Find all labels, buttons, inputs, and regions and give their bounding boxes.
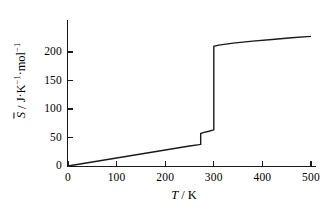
x-axis-label: T / K [124,188,244,203]
y-axis-symbol: S [15,112,30,118]
y-axis-label: S / J·K−1·mol−1 [12,16,29,146]
x-axis-unit: K [188,188,197,202]
x-axis-separator: / [178,188,188,202]
data-curve [0,0,328,214]
y-axis-unit: J·K−1·mol−1 [15,43,29,102]
entropy-temperature-chart: 0100200300400500 050100150200 T / K S / … [0,0,328,214]
y-axis-separator: / [15,102,29,112]
